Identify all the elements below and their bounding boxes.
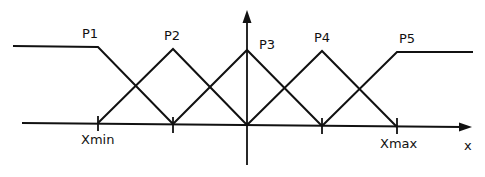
label-p1: P1 — [82, 26, 98, 41]
set-p1-line — [13, 46, 173, 124]
y-axis-arrow-icon — [243, 10, 252, 23]
y-axis — [243, 10, 252, 165]
label-p4: P4 — [314, 30, 330, 45]
membership-function-diagram: P1 P2 P3 P4 P5 Xmin Xmax x — [0, 0, 485, 177]
set-p5-line — [322, 52, 473, 126]
label-p5: P5 — [399, 31, 415, 46]
set-p2-line — [98, 49, 247, 125]
label-x-axis: x — [464, 138, 472, 153]
label-p3: P3 — [259, 37, 275, 52]
label-p2: P2 — [164, 28, 180, 43]
set-p4-line — [247, 51, 397, 127]
label-xmax: Xmax — [380, 136, 418, 151]
x-axis-arrow-icon — [459, 123, 472, 132]
label-xmin: Xmin — [81, 132, 114, 147]
